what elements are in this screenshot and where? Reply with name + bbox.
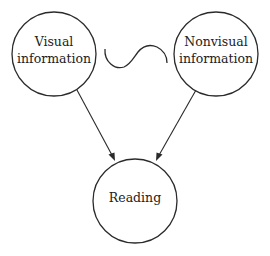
edge-visual-to-reading (77, 90, 115, 161)
node-label: information (17, 51, 91, 66)
reading-information-diagram: Visual information Nonvisual information… (0, 0, 270, 256)
tilde-wave-icon (105, 46, 167, 68)
node-label: Nonvisual (184, 34, 248, 49)
node-label: Visual (34, 34, 74, 49)
node-visual-information: Visual information (12, 12, 96, 96)
node-nonvisual-information: Nonvisual information (174, 12, 258, 96)
node-label: Reading (109, 190, 161, 205)
arrowhead-icon (109, 153, 116, 162)
edge-nonvisual-to-reading (156, 90, 196, 161)
node-label: information (179, 51, 253, 66)
arrowhead-icon (156, 153, 163, 162)
node-reading: Reading (93, 159, 177, 243)
